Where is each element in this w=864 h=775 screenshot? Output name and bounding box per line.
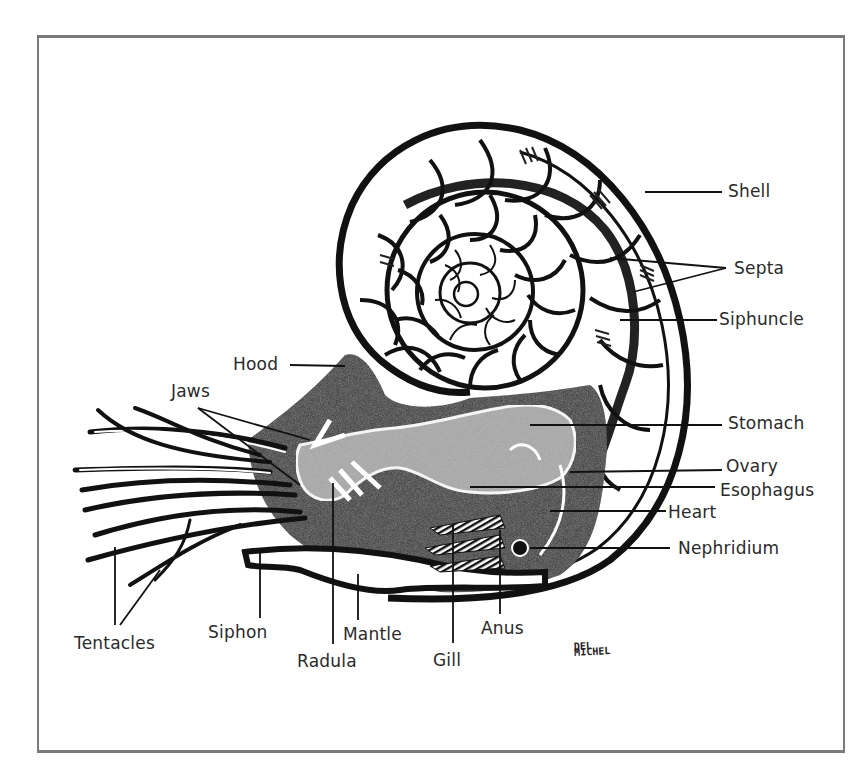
label-siphon: Siphon	[208, 624, 267, 641]
label-nephridium: Nephridium	[678, 540, 779, 557]
label-mantle: Mantle	[343, 626, 402, 643]
nautilus-illustration	[0, 0, 864, 775]
label-siphuncle: Siphuncle	[719, 311, 804, 328]
artist-signature: DEL MICHEL	[574, 640, 611, 657]
label-ovary: Ovary	[726, 458, 778, 475]
label-hood: Hood	[233, 356, 278, 373]
label-jaws: Jaws	[171, 383, 210, 400]
label-gill: Gill	[433, 652, 461, 669]
label-heart: Heart	[668, 504, 716, 521]
label-radula: Radula	[297, 653, 357, 670]
label-septa: Septa	[734, 260, 784, 277]
label-stomach: Stomach	[728, 415, 804, 432]
label-esophagus: Esophagus	[720, 482, 814, 499]
label-tentacles: Tentacles	[74, 635, 155, 652]
signature-line-2: MICHEL	[574, 646, 611, 657]
label-anus: Anus	[481, 620, 524, 637]
label-shell: Shell	[728, 183, 770, 200]
